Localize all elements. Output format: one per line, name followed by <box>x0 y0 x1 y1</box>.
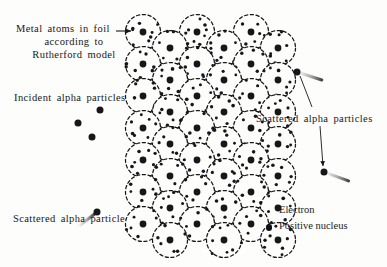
electron <box>217 33 221 37</box>
incident-alpha-particle <box>64 120 82 127</box>
electron <box>258 32 261 35</box>
positive-nucleus <box>167 109 174 116</box>
electron <box>232 180 235 183</box>
electron <box>133 161 136 164</box>
electron <box>215 87 218 90</box>
electron <box>172 30 175 33</box>
electron <box>167 195 170 198</box>
electron <box>260 180 263 183</box>
electron <box>171 215 174 218</box>
electron <box>139 51 142 54</box>
electron <box>152 188 155 191</box>
electron <box>266 165 269 168</box>
positive-nucleus <box>248 125 255 132</box>
positive-nucleus <box>167 205 174 212</box>
electron <box>184 65 188 69</box>
label-scattered-alpha-particles: Scattered alpha particles <box>256 113 373 126</box>
electron <box>152 65 156 69</box>
label-metal-atoms-line2: according to <box>14 36 134 49</box>
electron <box>285 91 288 94</box>
incident-alpha-particle <box>79 134 96 141</box>
electron <box>159 242 162 245</box>
electron <box>212 162 215 165</box>
positive-nucleus <box>248 29 255 36</box>
particle-trail <box>327 173 348 181</box>
electron <box>166 30 169 33</box>
electron <box>217 153 220 156</box>
electron <box>281 253 284 256</box>
electron <box>259 214 263 218</box>
positive-nucleus <box>167 237 174 244</box>
electron <box>172 118 175 121</box>
electron <box>173 182 176 185</box>
electron <box>130 165 134 169</box>
electron <box>162 197 165 200</box>
electron <box>222 70 225 73</box>
positive-nucleus <box>275 77 282 84</box>
electron <box>163 224 167 228</box>
electron <box>185 195 188 198</box>
electron <box>186 42 189 45</box>
electron <box>252 49 255 52</box>
electron <box>209 91 212 94</box>
legend-item-electron: Electron <box>279 204 315 215</box>
electron <box>286 145 289 148</box>
electron <box>238 222 241 225</box>
electron <box>278 133 282 137</box>
electron <box>158 112 161 115</box>
electron <box>175 152 178 155</box>
electron <box>192 86 195 89</box>
electron <box>263 246 266 249</box>
positive-nucleus <box>194 189 201 196</box>
label-metal-atoms-line3: Rutherford model <box>14 49 134 62</box>
electron <box>226 224 229 227</box>
electron <box>152 163 155 166</box>
electron <box>285 59 288 62</box>
electron <box>151 69 155 73</box>
electron <box>171 67 175 71</box>
electron <box>245 79 248 82</box>
positive-nucleus <box>140 189 147 196</box>
electron <box>256 84 259 87</box>
electron <box>286 106 289 109</box>
electron <box>138 22 141 25</box>
electron <box>200 175 203 178</box>
electron <box>154 122 157 125</box>
electron <box>267 107 270 110</box>
electron <box>259 201 263 205</box>
electron <box>176 98 179 101</box>
electron <box>176 164 179 167</box>
electron <box>125 65 128 68</box>
electron <box>267 195 270 198</box>
electron <box>209 73 212 76</box>
electron <box>215 199 219 203</box>
electron <box>185 135 188 138</box>
electron <box>241 22 244 25</box>
electron <box>188 168 192 172</box>
electron <box>140 199 143 202</box>
positive-nucleus <box>248 93 255 100</box>
legend-nucleus-label: Positive nucleus <box>279 220 348 231</box>
electron <box>285 85 288 88</box>
incident-alpha-particle <box>87 107 104 114</box>
electron <box>279 99 282 102</box>
electron <box>171 126 174 129</box>
electron <box>223 216 226 219</box>
electron <box>147 39 150 42</box>
electron <box>209 41 212 44</box>
rutherford-scattering-figure: Metal atoms in foil according to Rutherf… <box>0 0 387 267</box>
electron <box>245 167 248 170</box>
positive-nucleus <box>167 77 174 84</box>
electron <box>185 225 188 228</box>
electron <box>209 156 212 159</box>
electron <box>241 163 244 166</box>
electron <box>131 132 135 136</box>
electron <box>218 159 222 163</box>
electron <box>179 217 182 220</box>
electron <box>277 69 281 73</box>
electron <box>205 28 208 31</box>
electron <box>201 73 204 76</box>
electron <box>137 150 141 154</box>
electron <box>184 31 187 34</box>
electron <box>228 183 232 187</box>
